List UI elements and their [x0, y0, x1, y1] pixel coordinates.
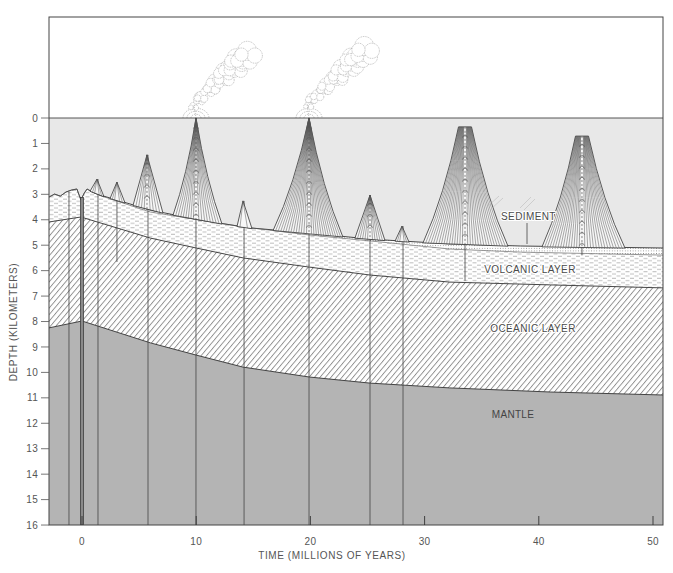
plume-puff — [305, 97, 311, 103]
y-axis-title: DEPTH (KILOMETERS) — [8, 263, 19, 382]
y-tick-label: 0 — [32, 113, 38, 124]
plume-puff — [194, 95, 200, 101]
y-tick-label: 2 — [32, 163, 38, 174]
volcanic-plume — [183, 41, 262, 118]
y-tick-label: 6 — [32, 265, 38, 276]
seafloor-spreading-diagram: 012345678910111213141516 01020304050 DEP… — [0, 0, 673, 573]
y-tick-label: 11 — [27, 392, 38, 403]
plume-puff — [189, 105, 194, 110]
y-tick-label: 5 — [32, 240, 38, 251]
y-tick-label: 12 — [26, 418, 38, 429]
eruption-splash — [296, 108, 322, 118]
x-tick-label: 10 — [190, 536, 202, 547]
x-tick-label: 40 — [533, 536, 545, 547]
plume-puff — [235, 48, 248, 61]
y-tick-label: 15 — [26, 494, 38, 505]
y-tick-label: 10 — [26, 367, 38, 378]
y-axis-ticks: 012345678910111213141516 — [26, 113, 49, 531]
y-tick-label: 7 — [32, 291, 38, 302]
y-tick-label: 8 — [32, 316, 38, 327]
plume-puff — [193, 105, 199, 111]
x-tick-label: 30 — [419, 536, 431, 547]
ridge-axis — [80, 198, 83, 525]
label-volcanic-layer: VOLCANIC LAYER — [484, 264, 576, 275]
y-tick-label: 3 — [32, 189, 38, 200]
y-tick-label: 14 — [26, 469, 38, 480]
plume-puff — [200, 95, 207, 102]
plume-puff — [311, 93, 317, 99]
label-mantle: MANTLE — [492, 409, 534, 420]
plume-puff — [318, 82, 326, 90]
x-tick-label: 0 — [79, 536, 85, 547]
x-axis-title: TIME (MILLIONS OF YEARS) — [258, 550, 406, 561]
x-tick-label: 50 — [647, 536, 659, 547]
plume-puff — [352, 43, 365, 56]
y-tick-label: 13 — [26, 443, 38, 454]
y-tick-label: 9 — [32, 342, 38, 353]
eruption-plumes — [183, 37, 379, 119]
x-tick-label: 20 — [305, 536, 317, 547]
plume-puff — [364, 43, 379, 58]
plume-puff — [308, 104, 314, 110]
volcanic-plume — [296, 37, 379, 119]
y-tick-label: 4 — [32, 214, 38, 225]
cross-section-figure: 012345678910111213141516 01020304050 DEP… — [0, 0, 673, 573]
y-tick-label: 1 — [32, 138, 38, 149]
y-tick-label: 16 — [26, 520, 38, 531]
label-sediment: SEDIMENT — [501, 211, 556, 222]
plume-puff — [304, 104, 309, 109]
plume-puff — [247, 48, 262, 63]
label-oceanic-layer: OCEANIC LAYER — [490, 323, 576, 334]
plume-puff — [316, 93, 323, 100]
